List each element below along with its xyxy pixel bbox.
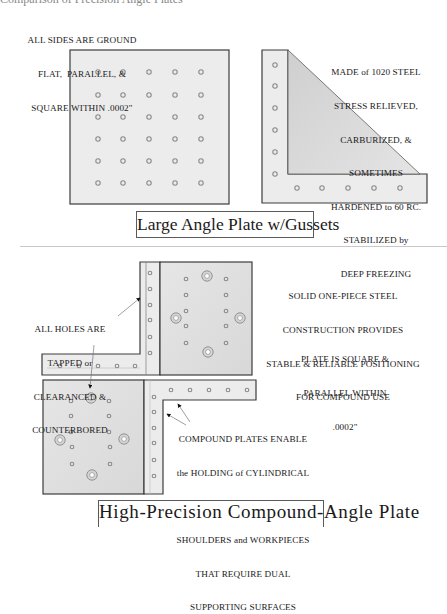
section-divider — [20, 246, 447, 247]
note-material: MADE of 1020 STEEL STRESS RELIEVED, CARB… — [324, 45, 428, 291]
caption-large-angle-plate: Large Angle Plate w/Gussets — [136, 211, 314, 238]
note-holes: ALL HOLES ARE TAPPED or CLEARANCED & COU… — [28, 302, 112, 448]
caption-compound-angle-plate: High-Precision Compound-Angle Plate — [98, 500, 324, 527]
note-ground-flat: ALL SIDES ARE GROUND FLAT, PARALLEL, & S… — [22, 13, 142, 125]
